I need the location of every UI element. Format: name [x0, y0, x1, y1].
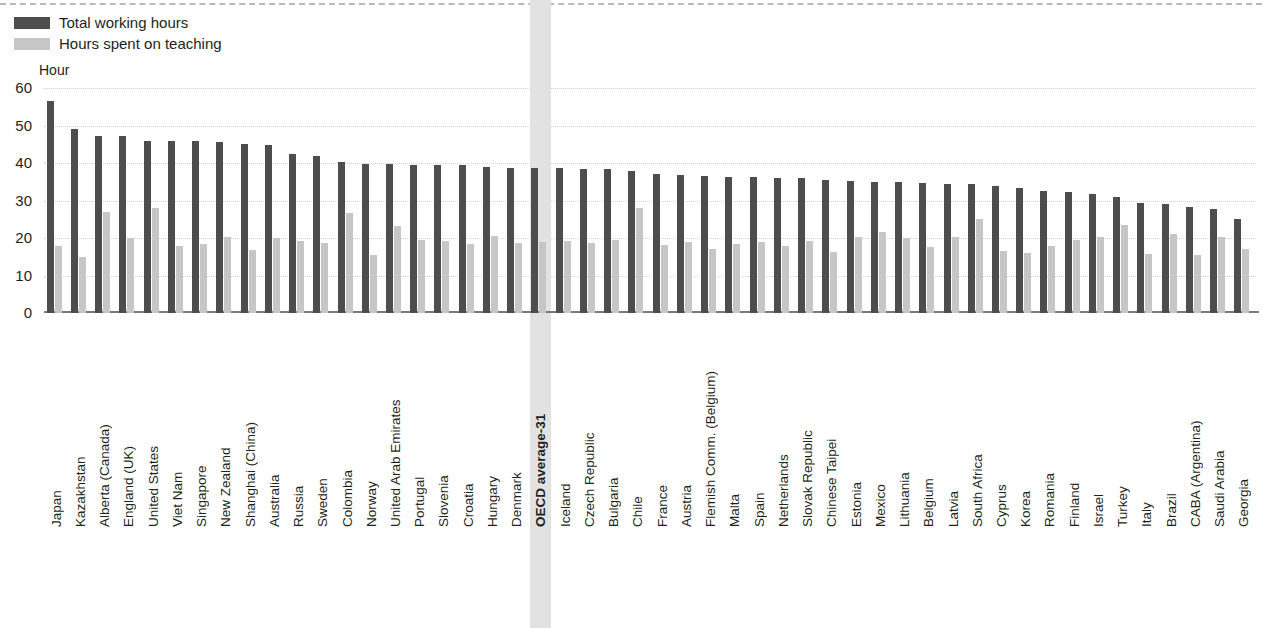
bar-group[interactable]	[433, 88, 454, 313]
bar-total-working-hours[interactable]	[1234, 219, 1241, 313]
bar-group[interactable]	[143, 88, 164, 313]
bar-group[interactable]	[482, 88, 503, 313]
bar-total-working-hours[interactable]	[701, 176, 708, 313]
bar-group[interactable]	[579, 88, 600, 313]
bar-total-working-hours[interactable]	[774, 178, 781, 313]
bar-hours-spent-on-teaching[interactable]	[952, 237, 959, 313]
bar-total-working-hours[interactable]	[628, 171, 635, 314]
bar-group[interactable]	[1233, 88, 1254, 313]
bar-group[interactable]	[240, 88, 261, 313]
bar-group[interactable]	[1064, 88, 1085, 313]
bar-group[interactable]	[1088, 88, 1109, 313]
bar-group[interactable]	[215, 88, 236, 313]
bar-group[interactable]	[991, 88, 1012, 313]
bar-group[interactable]	[967, 88, 988, 313]
bar-total-working-hours[interactable]	[144, 141, 151, 314]
bar-total-working-hours[interactable]	[556, 168, 563, 313]
bar-hours-spent-on-teaching[interactable]	[127, 238, 134, 313]
bar-total-working-hours[interactable]	[1065, 192, 1072, 314]
bar-total-working-hours[interactable]	[1040, 191, 1047, 313]
bar-hours-spent-on-teaching[interactable]	[1218, 237, 1225, 313]
bar-hours-spent-on-teaching[interactable]	[297, 241, 304, 313]
bar-hours-spent-on-teaching[interactable]	[855, 237, 862, 313]
bar-hours-spent-on-teaching[interactable]	[612, 240, 619, 313]
bar-group[interactable]	[870, 88, 891, 313]
bar-total-working-hours[interactable]	[192, 141, 199, 313]
bar-hours-spent-on-teaching[interactable]	[927, 247, 934, 313]
bar-hours-spent-on-teaching[interactable]	[1073, 240, 1080, 314]
bar-total-working-hours[interactable]	[944, 184, 951, 313]
bar-total-working-hours[interactable]	[531, 168, 538, 314]
bar-group[interactable]	[288, 88, 309, 313]
bar-total-working-hours[interactable]	[434, 165, 441, 313]
bar-hours-spent-on-teaching[interactable]	[1194, 255, 1201, 314]
bar-total-working-hours[interactable]	[580, 169, 587, 313]
bar-hours-spent-on-teaching[interactable]	[1048, 246, 1055, 314]
bar-total-working-hours[interactable]	[992, 186, 999, 314]
bar-total-working-hours[interactable]	[677, 175, 684, 313]
bar-hours-spent-on-teaching[interactable]	[55, 246, 62, 314]
bar-group[interactable]	[627, 88, 648, 313]
bar-total-working-hours[interactable]	[1186, 207, 1193, 313]
bar-hours-spent-on-teaching[interactable]	[370, 255, 377, 314]
bar-group[interactable]	[385, 88, 406, 313]
bar-hours-spent-on-teaching[interactable]	[782, 246, 789, 314]
bar-total-working-hours[interactable]	[798, 178, 805, 313]
bar-hours-spent-on-teaching[interactable]	[176, 246, 183, 313]
bar-total-working-hours[interactable]	[168, 141, 175, 314]
bar-hours-spent-on-teaching[interactable]	[758, 242, 765, 313]
bar-group[interactable]	[1161, 88, 1182, 313]
bar-group[interactable]	[506, 88, 527, 313]
bar-group[interactable]	[821, 88, 842, 313]
bar-hours-spent-on-teaching[interactable]	[467, 244, 474, 313]
bar-hours-spent-on-teaching[interactable]	[976, 219, 983, 313]
bar-group[interactable]	[1112, 88, 1133, 313]
bar-hours-spent-on-teaching[interactable]	[564, 241, 571, 313]
bar-hours-spent-on-teaching[interactable]	[394, 226, 401, 313]
bar-hours-spent-on-teaching[interactable]	[1121, 225, 1128, 314]
bar-hours-spent-on-teaching[interactable]	[1024, 253, 1031, 313]
bar-total-working-hours[interactable]	[483, 167, 490, 313]
bar-hours-spent-on-teaching[interactable]	[806, 241, 813, 313]
bar-group[interactable]	[46, 88, 67, 313]
bar-total-working-hours[interactable]	[871, 182, 878, 313]
bar-hours-spent-on-teaching[interactable]	[1097, 237, 1104, 314]
bar-total-working-hours[interactable]	[1137, 203, 1144, 313]
bar-hours-spent-on-teaching[interactable]	[273, 238, 280, 313]
bar-total-working-hours[interactable]	[1162, 204, 1169, 313]
bar-total-working-hours[interactable]	[410, 165, 417, 314]
bar-total-working-hours[interactable]	[822, 180, 829, 313]
bar-hours-spent-on-teaching[interactable]	[1242, 249, 1249, 314]
bar-total-working-hours[interactable]	[265, 145, 272, 313]
bar-hours-spent-on-teaching[interactable]	[346, 213, 353, 313]
bar-group[interactable]	[530, 88, 551, 313]
bar-total-working-hours[interactable]	[725, 177, 732, 313]
bar-total-working-hours[interactable]	[1113, 197, 1120, 313]
bar-group[interactable]	[603, 88, 624, 313]
bar-group[interactable]	[700, 88, 721, 313]
bar-group[interactable]	[773, 88, 794, 313]
bar-group[interactable]	[894, 88, 915, 313]
bar-hours-spent-on-teaching[interactable]	[685, 242, 692, 313]
bar-group[interactable]	[312, 88, 333, 313]
bar-group[interactable]	[724, 88, 745, 313]
bar-hours-spent-on-teaching[interactable]	[879, 232, 886, 313]
bar-group[interactable]	[70, 88, 91, 313]
bar-hours-spent-on-teaching[interactable]	[152, 208, 159, 313]
bar-hours-spent-on-teaching[interactable]	[418, 240, 425, 313]
bar-hours-spent-on-teaching[interactable]	[103, 212, 110, 313]
bar-total-working-hours[interactable]	[386, 164, 393, 313]
bar-total-working-hours[interactable]	[216, 142, 223, 313]
bar-group[interactable]	[676, 88, 697, 313]
bar-group[interactable]	[1039, 88, 1060, 313]
bar-hours-spent-on-teaching[interactable]	[224, 237, 231, 313]
bar-hours-spent-on-teaching[interactable]	[1000, 251, 1007, 313]
bar-hours-spent-on-teaching[interactable]	[636, 208, 643, 313]
bar-group[interactable]	[918, 88, 939, 313]
bar-total-working-hours[interactable]	[71, 129, 78, 313]
bar-total-working-hours[interactable]	[604, 169, 611, 313]
bar-hours-spent-on-teaching[interactable]	[442, 241, 449, 313]
bar-total-working-hours[interactable]	[750, 177, 757, 313]
bar-hours-spent-on-teaching[interactable]	[515, 243, 522, 313]
bar-group[interactable]	[1209, 88, 1230, 313]
